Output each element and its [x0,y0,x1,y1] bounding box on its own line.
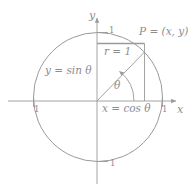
sine-equation-label: y = sin θ [45,65,92,76]
cosine-equation-label: x = cos θ [102,103,151,114]
theta-angle-label: θ [114,80,120,91]
unit-circle [34,33,163,162]
tick-label-bottom: 1 [110,159,115,168]
point-p-label: P = (x, y) [139,26,188,37]
tick-label-right: 1 [162,105,167,114]
unit-circle-figure: x y 1 1 1 1 P = (x, y) r = 1 θ y = sin θ… [0,0,194,193]
radius-label: r = 1 [104,46,131,57]
y-axis-label: y [89,10,95,21]
radius-segment [97,52,145,101]
x-axis-label: x [177,104,183,115]
tick-label-left: 1 [34,105,39,114]
tick-label-top: 1 [109,26,114,35]
